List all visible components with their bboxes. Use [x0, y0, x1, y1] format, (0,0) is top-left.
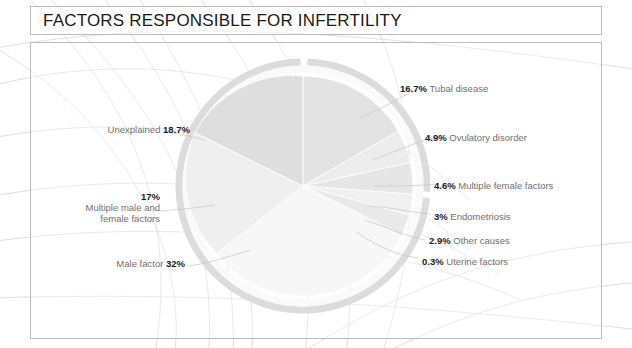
label-ovulatory-disorder-text: Ovulatory disorder [447, 132, 527, 143]
label-tubal-disease-percent: 16.7% [400, 83, 427, 94]
label-tubal-disease-text: Tubal disease [427, 83, 488, 94]
label-endometriosis: 3% Endometriosis [434, 211, 511, 223]
label-uterine-factors-percent: 0.3% [422, 256, 444, 267]
label-unexplained-percent: 18.7% [163, 124, 190, 135]
label-unexplained-text: Unexplained [108, 124, 163, 135]
label-other-causes: 2.9% Other causes [429, 235, 510, 247]
label-multiple-female-factors: 4.6% Multiple female factors [434, 180, 553, 192]
label-endometriosis-text: Endometriosis [448, 211, 511, 222]
slide-root: FACTORS RESPONSIBLE FOR INFERTILITY [0, 0, 632, 348]
label-multiple-male-female-line2: female factors [0, 213, 160, 224]
label-ovulatory-disorder: 4.9% Ovulatory disorder [425, 132, 527, 144]
label-male-factor-text: Male factor [116, 258, 166, 269]
label-uterine-factors-text: Uterine factors [444, 256, 508, 267]
label-tubal-disease: 16.7% Tubal disease [400, 83, 488, 95]
label-uterine-factors: 0.3% Uterine factors [422, 256, 508, 268]
label-multiple-male-female-line1: Multiple male and [0, 202, 160, 213]
label-multiple-male-female-percent: 17% [0, 191, 160, 202]
label-other-causes-text: Other causes [451, 235, 510, 246]
label-other-causes-percent: 2.9% [429, 235, 451, 246]
label-multiple-female-factors-text: Multiple female factors [456, 180, 554, 191]
label-male-factor-percent: 32% [166, 258, 185, 269]
label-male-factor: Male factor 32% [0, 258, 185, 270]
label-unexplained: Unexplained 18.7% [0, 124, 190, 136]
label-multiple-male-female-factors: 17% Multiple male and female factors [0, 191, 160, 224]
label-multiple-female-factors-percent: 4.6% [434, 180, 456, 191]
pie-chart [0, 0, 632, 348]
label-endometriosis-percent: 3% [434, 211, 448, 222]
label-ovulatory-disorder-percent: 4.9% [425, 132, 447, 143]
